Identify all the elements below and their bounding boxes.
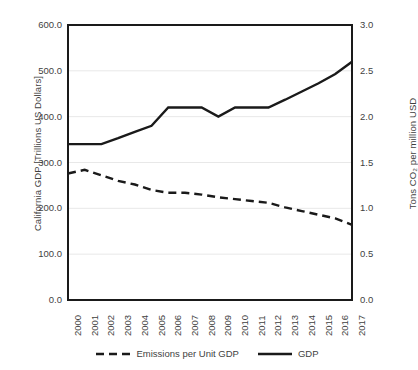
dashed-line-icon xyxy=(95,349,131,359)
series-line-2 xyxy=(68,62,352,145)
legend-label: Emissions per Unit GDP xyxy=(136,348,238,359)
series-line-1 xyxy=(68,170,352,225)
solid-line-icon xyxy=(257,349,293,359)
legend-label: GDP xyxy=(298,348,319,359)
legend-item[interactable]: Emissions per Unit GDP xyxy=(95,348,238,359)
chart-legend: Emissions per Unit GDPGDP xyxy=(0,348,414,359)
legend-item[interactable]: GDP xyxy=(257,348,319,359)
